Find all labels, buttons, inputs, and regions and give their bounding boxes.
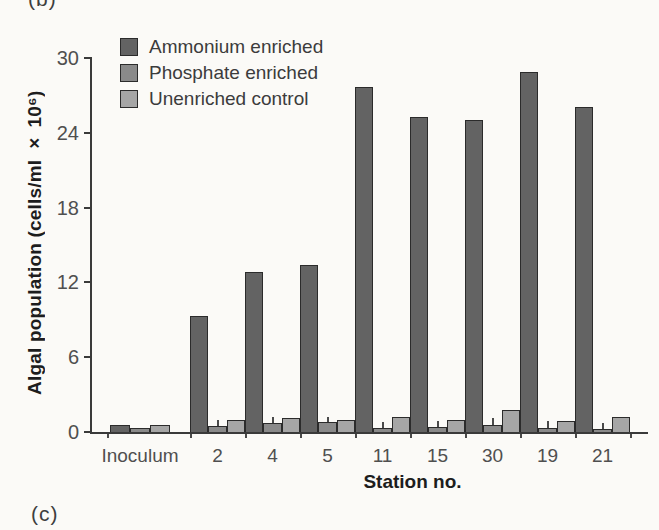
y-tick-18 xyxy=(84,207,90,209)
y-tick-12 xyxy=(84,281,90,283)
bar-4-unenriched-control xyxy=(282,418,300,432)
error-bar-19-phosphate-enriched xyxy=(547,421,549,428)
bar-21-ammonium-enriched xyxy=(575,107,593,432)
y-tick-label-12: 12 xyxy=(37,272,79,292)
y-tick-label-30: 30 xyxy=(37,48,79,68)
legend-item-unenriched-control: Unenriched control xyxy=(120,90,323,108)
error-bar-15-phosphate-enriched xyxy=(437,421,439,427)
bar-15-ammonium-enriched xyxy=(410,117,428,432)
bar-11-phosphate-enriched xyxy=(373,428,391,432)
bar-2-unenriched-control xyxy=(227,420,245,432)
x-axis-tick-9 xyxy=(630,434,632,438)
bar-5-unenriched-control xyxy=(337,420,355,432)
legend-label-unenriched-control: Unenriched control xyxy=(149,88,308,110)
x-axis-tick-5 xyxy=(410,434,412,438)
x-label-21: 21 xyxy=(548,446,658,466)
bar-inoculum-phosphate-enriched xyxy=(130,428,150,432)
bar-19-phosphate-enriched xyxy=(538,428,556,432)
error-bar-4-phosphate-enriched xyxy=(272,417,274,423)
x-axis-line xyxy=(90,432,648,434)
y-tick-0 xyxy=(84,431,90,433)
y-tick-24 xyxy=(84,132,90,134)
legend-swatch-phosphate-enriched xyxy=(120,64,138,82)
bar-2-ammonium-enriched xyxy=(190,316,208,432)
bar-21-unenriched-control xyxy=(612,417,630,432)
panel-label-c: (c) xyxy=(31,502,59,526)
panel-label-b: (b) xyxy=(28,0,57,11)
x-axis-tick-0 xyxy=(107,434,109,438)
legend: Ammonium enrichedPhosphate enrichedUnenr… xyxy=(120,38,323,116)
x-axis-tick-1 xyxy=(190,434,192,438)
x-axis-tick-8 xyxy=(575,434,577,438)
legend-label-ammonium-enriched: Ammonium enriched xyxy=(149,36,323,58)
y-tick-label-24: 24 xyxy=(37,123,79,143)
bar-5-ammonium-enriched xyxy=(300,265,318,432)
bar-5-phosphate-enriched xyxy=(318,422,336,432)
legend-swatch-ammonium-enriched xyxy=(120,38,138,56)
x-axis-tick-4 xyxy=(355,434,357,438)
legend-label-phosphate-enriched: Phosphate enriched xyxy=(149,62,318,84)
error-bar-11-phosphate-enriched xyxy=(382,422,384,428)
error-bar-30-phosphate-enriched xyxy=(492,418,494,424)
bar-11-unenriched-control xyxy=(392,417,410,432)
legend-item-ammonium-enriched: Ammonium enriched xyxy=(120,38,323,56)
bar-inoculum-ammonium-enriched xyxy=(110,425,130,432)
x-axis-title: Station no. xyxy=(330,471,495,493)
bar-2-phosphate-enriched xyxy=(208,426,226,432)
figure-panel: (b) Algal population (cells/ml × 10⁶) 06… xyxy=(0,0,659,530)
bar-30-ammonium-enriched xyxy=(465,120,483,432)
error-bar-5-phosphate-enriched xyxy=(327,417,329,422)
error-bar-21-phosphate-enriched xyxy=(602,423,604,429)
y-tick-label-6: 6 xyxy=(37,347,79,367)
y-tick-30 xyxy=(84,57,90,59)
y-axis-title: Algal population (cells/ml × 10⁶) xyxy=(24,52,50,434)
legend-swatch-unenriched-control xyxy=(120,90,138,108)
bar-4-ammonium-enriched xyxy=(245,272,263,432)
y-axis-line xyxy=(90,57,92,434)
x-axis-tick-3 xyxy=(300,434,302,438)
bar-21-phosphate-enriched xyxy=(593,429,611,432)
y-tick-6 xyxy=(84,356,90,358)
y-tick-label-0: 0 xyxy=(37,422,79,442)
bar-19-unenriched-control xyxy=(557,421,575,432)
bar-19-ammonium-enriched xyxy=(520,72,538,432)
bar-inoculum-unenriched-control xyxy=(150,425,170,432)
bar-15-unenriched-control xyxy=(447,420,465,432)
y-tick-label-18: 18 xyxy=(37,198,79,218)
bar-30-phosphate-enriched xyxy=(483,425,501,432)
x-axis-tick-7 xyxy=(520,434,522,438)
bar-30-unenriched-control xyxy=(502,410,520,432)
x-axis-tick-6 xyxy=(465,434,467,438)
bar-11-ammonium-enriched xyxy=(355,87,373,432)
x-axis-tick-2 xyxy=(245,434,247,438)
bar-4-phosphate-enriched xyxy=(263,423,281,432)
legend-item-phosphate-enriched: Phosphate enriched xyxy=(120,64,323,82)
bar-15-phosphate-enriched xyxy=(428,427,446,432)
error-bar-2-phosphate-enriched xyxy=(217,420,219,426)
